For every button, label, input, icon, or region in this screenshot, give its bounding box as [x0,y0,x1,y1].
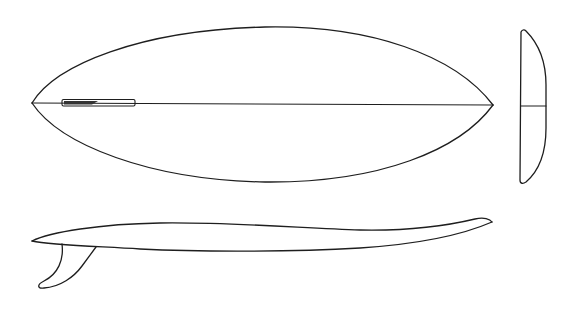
fin-box-shading [64,101,98,105]
plan-view [32,27,493,182]
plan-outline-bottom [32,103,493,182]
surfboard-diagram [0,0,577,319]
cross-section-view [520,30,546,183]
diagram-svg [0,0,577,319]
stringer-line [32,103,493,105]
fin-icon [39,244,96,288]
plan-outline-top [32,27,493,105]
profile-deck [32,218,492,241]
cross-section-outline [520,30,546,183]
side-profile-view [32,218,492,288]
